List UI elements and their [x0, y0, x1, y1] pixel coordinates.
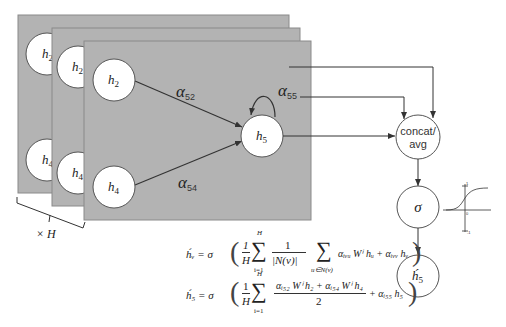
- eq2-frac2-bar: [274, 293, 366, 294]
- eq1-frac-den: H: [242, 254, 250, 266]
- eq2-frac2-num: αᵢ₅₂ Wⁱ h₂ + αᵢ₅₄ Wⁱ h₄: [276, 280, 363, 291]
- eq1-frac2-den: |N(v)|: [272, 254, 298, 266]
- eq2-frac-den: H: [242, 295, 250, 307]
- sigma-label: σ: [414, 199, 422, 215]
- eq1-sum2-bot: u∈N(v): [311, 266, 333, 274]
- eq1-frac-num: 1: [243, 239, 249, 251]
- eq1-left-paren: (: [230, 236, 239, 268]
- eq1-frac2-bar: [272, 252, 306, 253]
- eq2-term: + αᵢ₅₅ h₅: [369, 288, 403, 299]
- concat-avg-label-line2: avg: [409, 138, 427, 150]
- eq2-sum-bot: i=1: [254, 307, 263, 315]
- eq1-sum1-top: H: [257, 229, 262, 237]
- connector-middle-head: [300, 97, 404, 119]
- eq1-term: αᵢᵥᵤ Wⁱ hᵤ + αᵢᵥᵥ hᵥ: [338, 248, 408, 259]
- eq1-frac2-num: 1: [285, 239, 291, 251]
- eq2-sum-top: H: [257, 270, 262, 278]
- eq2-sum: ∑: [251, 278, 267, 304]
- eq2-right-paren: ): [408, 276, 417, 308]
- eq1-right-paren: ): [412, 236, 421, 268]
- attention-head-panel-front: h2 h4 h5 α52 α54 α55: [84, 41, 311, 220]
- sigmoid-tick-top: 1: [466, 181, 469, 186]
- eq2-frac2-den: 2: [316, 295, 322, 307]
- eq2-lhs: h́₅ = σ: [186, 289, 214, 301]
- eq2-frac-bar: [242, 293, 250, 294]
- eq1-frac-bar: [242, 252, 250, 253]
- sigmoid-plot-icon: 1 0 -1: [443, 181, 491, 235]
- eq1-sum2: ∑: [316, 237, 332, 263]
- sigmoid-tick-bottom: -1: [467, 230, 471, 235]
- sigmoid-tick-origin: 0: [466, 211, 469, 216]
- eq1-sum1: ∑: [251, 237, 267, 263]
- eq2-left-paren: (: [230, 276, 239, 308]
- eq1-lhs: h́ᵥ = σ: [186, 248, 213, 260]
- heads-count-label: × H: [36, 227, 57, 241]
- concat-avg-label-line1: concat/: [400, 125, 436, 137]
- concat-avg-node: [396, 115, 440, 159]
- eq2-frac-num: 1: [243, 280, 249, 292]
